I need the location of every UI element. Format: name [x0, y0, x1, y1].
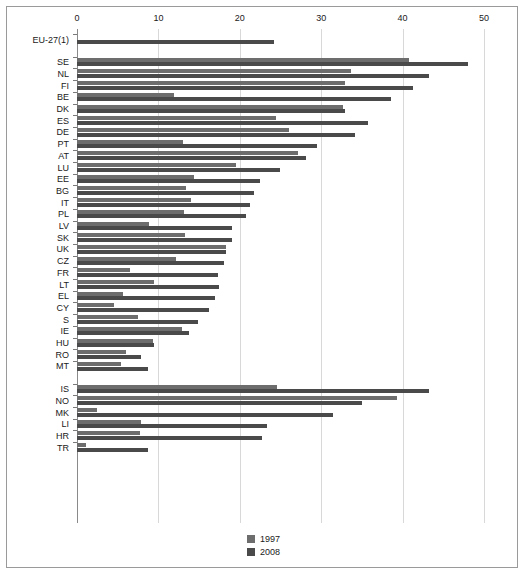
- bar-1997-es: [77, 116, 276, 120]
- bar-2008-se: [77, 62, 468, 66]
- bar-2008-mt: [77, 367, 148, 371]
- bar-2008-nl: [77, 74, 429, 78]
- bar-2008-dk: [77, 109, 345, 113]
- bar-2008-ie: [77, 331, 189, 335]
- bar-2008-it: [77, 203, 250, 207]
- legend-swatch-2008: [247, 548, 255, 556]
- category-label-ie: IE: [7, 327, 69, 336]
- category-label-s: S: [7, 316, 69, 325]
- category-label-pt: PT: [7, 140, 69, 149]
- category-label-hu: HU: [7, 339, 69, 348]
- bar-1997-cy: [77, 303, 114, 307]
- category-label-el: EL: [7, 292, 69, 301]
- x-axis-tick-30: 30: [306, 13, 336, 23]
- bar-1997-pl: [77, 210, 184, 214]
- category-label-li: LI: [7, 420, 69, 429]
- category-label-ee: EE: [7, 175, 69, 184]
- bar-2008-hu: [77, 343, 154, 347]
- bar-1997-mt: [77, 362, 121, 366]
- category-label-cz: CZ: [7, 257, 69, 266]
- chart-legend: 19972008: [247, 534, 280, 560]
- plot-area: 01020304050EU-27(1)SENLFIBEDKESDEPTATLUE…: [7, 7, 517, 567]
- category-label-hr: HR: [7, 432, 69, 441]
- category-label-at: AT: [7, 152, 69, 161]
- category-label-de: DE: [7, 128, 69, 137]
- x-axis-tick-40: 40: [388, 13, 418, 23]
- bar-1997-uk: [77, 245, 226, 249]
- category-label-no: NO: [7, 397, 69, 406]
- bar-1997-sk: [77, 233, 185, 237]
- category-label-nl: NL: [7, 70, 69, 79]
- bar-2008-lt: [77, 285, 219, 289]
- bar-2008-cy: [77, 308, 209, 312]
- bar-2008-ee: [77, 179, 260, 183]
- bar-1997-ee: [77, 175, 194, 179]
- bar-1997-s: [77, 315, 138, 319]
- bar-1997-hr: [77, 431, 140, 435]
- bar-1997-no: [77, 396, 397, 400]
- category-label-lu: LU: [7, 164, 69, 173]
- category-label-eu-271: EU-27(1): [7, 36, 69, 45]
- bar-1997-bg: [77, 186, 186, 190]
- bar-2008-li: [77, 424, 267, 428]
- category-label-dk: DK: [7, 105, 69, 114]
- bar-2008-hr: [77, 436, 262, 440]
- bar-2008-at: [77, 156, 306, 160]
- category-label-cy: CY: [7, 304, 69, 313]
- bar-2008-be: [77, 97, 391, 101]
- category-label-pl: PL: [7, 210, 69, 219]
- bar-1997-hu: [77, 339, 153, 343]
- category-label-es: ES: [7, 117, 69, 126]
- chart-frame: 01020304050EU-27(1)SENLFIBEDKESDEPTATLUE…: [6, 6, 518, 568]
- legend-item-1997[interactable]: 1997: [247, 534, 280, 544]
- bar-1997-lv: [77, 222, 149, 226]
- bar-2008-is: [77, 389, 429, 393]
- category-label-bg: BG: [7, 187, 69, 196]
- bar-2008-cz: [77, 261, 224, 265]
- bar-2008-eu-271: [77, 40, 274, 44]
- bar-1997-fr: [77, 268, 130, 272]
- bar-1997-mk: [77, 408, 97, 412]
- bar-1997-lu: [77, 163, 236, 167]
- x-axis-tick-10: 10: [143, 13, 173, 23]
- bar-2008-mk: [77, 413, 333, 417]
- bar-1997-ro: [77, 350, 126, 354]
- bar-1997-el: [77, 292, 123, 296]
- bar-1997-be: [77, 93, 174, 97]
- chart-page: 01020304050EU-27(1)SENLFIBEDKESDEPTATLUE…: [0, 0, 526, 576]
- bar-2008-pt: [77, 144, 317, 148]
- gridline-20: [240, 29, 241, 523]
- bar-1997-pt: [77, 140, 183, 144]
- row-tick: [73, 34, 77, 35]
- category-label-be: BE: [7, 93, 69, 102]
- category-label-fr: FR: [7, 269, 69, 278]
- bar-1997-de: [77, 128, 289, 132]
- category-label-mk: MK: [7, 409, 69, 418]
- bar-1997-tr: [77, 443, 86, 447]
- bar-2008-uk: [77, 250, 226, 254]
- bar-2008-bg: [77, 191, 254, 195]
- bar-1997-cz: [77, 257, 176, 261]
- bar-2008-s: [77, 320, 198, 324]
- x-axis-tick-50: 50: [469, 13, 499, 23]
- category-label-tr: TR: [7, 444, 69, 453]
- bar-2008-lv: [77, 226, 232, 230]
- bar-1997-it: [77, 198, 191, 202]
- bar-1997-li: [77, 420, 141, 424]
- legend-swatch-1997: [247, 535, 255, 543]
- category-label-se: SE: [7, 58, 69, 67]
- gridline-40: [403, 29, 404, 523]
- x-axis-tick-20: 20: [225, 13, 255, 23]
- bar-2008-es: [77, 121, 368, 125]
- bar-2008-no: [77, 401, 362, 405]
- bar-1997-se: [77, 58, 409, 62]
- bar-2008-sk: [77, 238, 232, 242]
- legend-item-2008[interactable]: 2008: [247, 547, 280, 557]
- bar-1997-fi: [77, 81, 345, 85]
- bar-2008-fr: [77, 273, 218, 277]
- category-label-mt: MT: [7, 362, 69, 371]
- category-label-it: IT: [7, 199, 69, 208]
- bar-1997-nl: [77, 69, 351, 73]
- bar-2008-tr: [77, 448, 148, 452]
- gridline-30: [321, 29, 322, 523]
